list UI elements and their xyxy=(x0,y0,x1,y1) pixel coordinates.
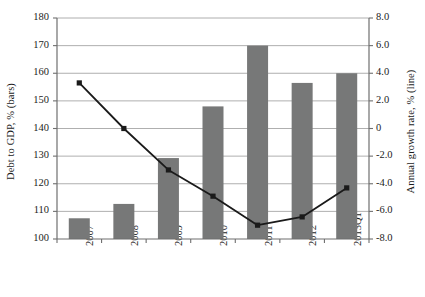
bar-2011 xyxy=(247,46,268,239)
chart-container: Debt to GDP, % (bars) Annual growth rate… xyxy=(0,0,425,297)
line-marker-2013Q1 xyxy=(344,185,349,190)
line-marker-2012 xyxy=(300,214,305,219)
line-marker-2007 xyxy=(77,80,82,85)
bar-2007 xyxy=(69,218,90,239)
bar-2010 xyxy=(203,106,224,239)
bar-2013Q1 xyxy=(336,73,357,239)
line-marker-2011 xyxy=(255,223,260,228)
line-marker-2008 xyxy=(121,126,126,131)
plot-area xyxy=(0,0,425,297)
bar-2008 xyxy=(113,204,134,239)
line-marker-2010 xyxy=(210,194,215,199)
line-marker-2009 xyxy=(166,167,171,172)
